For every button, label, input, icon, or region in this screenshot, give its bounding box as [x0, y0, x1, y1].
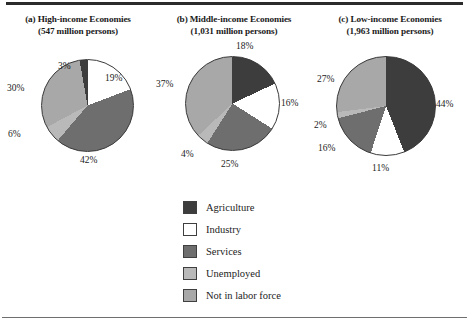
panel-title-low-income: (c) Low-income Economies (1,963 million … [312, 14, 468, 37]
pie-panel-middle-income: (b) Middle-income Economies (1,031 milli… [156, 14, 312, 189]
bottom-rule [2, 317, 467, 318]
top-rule [6, 2, 463, 5]
legend-item-not-in-labor-force[interactable]: Not in labor force [183, 284, 281, 306]
legend-label-unemployed: Unemployed [206, 268, 260, 279]
charts-row: (a) High-income Economies (547 million p… [0, 14, 469, 189]
slice-label-services: 42% [80, 155, 97, 165]
panel-title-line2: (547 million persons) [4, 26, 152, 38]
panel-title-line2: (1,963 million persons) [316, 26, 464, 38]
slice-label-not-in-labor-force: 37% [156, 79, 173, 89]
legend-label-not-in-labor-force: Not in labor force [206, 290, 281, 301]
slice-label-agriculture: 44% [436, 99, 453, 109]
legend-label-industry: Industry [206, 224, 241, 235]
slice-label-not-in-labor-force: 30% [7, 83, 24, 93]
slice-label-unemployed: 4% [181, 149, 194, 159]
panel-title-line2: (1,031 million persons) [160, 26, 308, 38]
panel-title-line1: (a) High-income Economies [25, 14, 131, 24]
pie-chart-low-income[interactable] [336, 56, 436, 156]
legend-swatch-not-in-labor-force [183, 289, 197, 302]
slice-label-unemployed: 2% [314, 120, 327, 130]
slice-label-services: 25% [221, 159, 238, 169]
slice-label-agriculture: 18% [236, 41, 253, 51]
pie-wrap-low-income: 44% 11% 16% 2% 27% [312, 37, 468, 177]
figure-container: (a) High-income Economies (547 million p… [0, 0, 469, 330]
slice-label-industry: 11% [372, 163, 389, 173]
slice-label-industry: 16% [281, 98, 298, 108]
legend-swatch-industry [183, 223, 197, 236]
panel-title-line1: (c) Low-income Economies [338, 14, 441, 24]
legend-label-services: Services [206, 246, 242, 257]
legend-item-unemployed[interactable]: Unemployed [183, 262, 281, 284]
legend-swatch-unemployed [183, 267, 197, 280]
slice-label-services: 16% [318, 143, 335, 153]
legend-swatch-agriculture [183, 201, 197, 214]
legend-item-services[interactable]: Services [183, 240, 281, 262]
slice-label-not-in-labor-force: 27% [317, 74, 334, 84]
pie-panel-low-income: (c) Low-income Economies (1,963 million … [312, 14, 468, 189]
legend: Agriculture Industry Services Unemployed… [183, 196, 281, 306]
panel-title-middle-income: (b) Middle-income Economies (1,031 milli… [156, 14, 312, 37]
panel-title-high-income: (a) High-income Economies (547 million p… [0, 14, 156, 37]
slice-label-agriculture: 3% [58, 61, 71, 71]
slice-label-industry: 19% [105, 73, 122, 83]
legend-swatch-services [183, 245, 197, 258]
pie-chart-middle-income[interactable] [185, 56, 280, 151]
legend-item-industry[interactable]: Industry [183, 218, 281, 240]
slice-label-unemployed: 6% [8, 129, 21, 139]
pie-wrap-middle-income: 18% 16% 25% 4% 37% [156, 37, 312, 177]
pie-wrap-high-income: 3% 19% 42% 6% 30% [0, 37, 156, 177]
pie-panel-high-income: (a) High-income Economies (547 million p… [0, 14, 156, 189]
panel-title-line1: (b) Middle-income Economies [177, 14, 292, 24]
legend-item-agriculture[interactable]: Agriculture [183, 196, 281, 218]
legend-label-agriculture: Agriculture [206, 202, 254, 213]
